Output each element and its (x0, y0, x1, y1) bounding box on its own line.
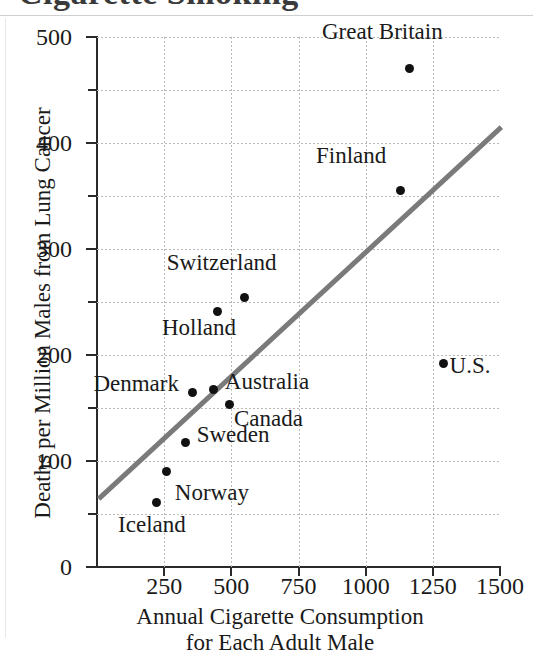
page-edge-rule (5, 18, 6, 638)
data-point-label: Australia (225, 370, 309, 393)
y-axis-tick (86, 36, 97, 38)
data-point-label: Iceland (118, 513, 186, 536)
y-axis-tick (86, 354, 97, 356)
data-point-label: Holland (162, 316, 236, 339)
y-axis-tick-label: 300 (12, 237, 72, 261)
x-axis-title-line1: Annual Cigarette Consumption (60, 604, 500, 630)
data-point (188, 388, 197, 397)
y-axis-tick-minor (88, 407, 97, 409)
data-point (152, 498, 161, 507)
gridline-vertical (433, 37, 434, 567)
y-axis-tick-label: 100 (12, 449, 72, 473)
x-axis-title-line2: for Each Adult Male (60, 630, 500, 656)
data-point-label: Denmark (93, 372, 179, 395)
y-axis-tick-label: 0 (12, 555, 72, 579)
y-axis-tick (86, 566, 97, 568)
gridline-vertical (299, 37, 300, 567)
y-axis-tick-label: 400 (12, 131, 72, 155)
gridline-vertical (164, 37, 165, 567)
data-point-label: Norway (175, 481, 249, 504)
y-axis-tick-minor (88, 301, 97, 303)
y-axis-tick-minor (88, 195, 97, 197)
data-point-label: Switzerland (167, 251, 277, 274)
data-point (439, 359, 448, 368)
gridline-vertical (366, 37, 367, 567)
data-point-label: Canada (234, 407, 303, 430)
data-point-label: Finland (316, 144, 386, 167)
y-axis-tick-minor (88, 89, 97, 91)
data-point (396, 186, 405, 195)
y-axis-tick-label: 200 (12, 343, 72, 367)
title-divider (0, 15, 533, 16)
data-point-label: Great Britain (322, 20, 443, 43)
data-point-label: U.S. (450, 354, 491, 377)
y-axis-tick (86, 142, 97, 144)
y-axis-tick (86, 248, 97, 250)
y-axis-tick-label: 500 (12, 25, 72, 49)
x-axis-title: Annual Cigarette Consumption for Each Ad… (60, 604, 500, 656)
page-title: Cigarette Smoking (18, 0, 299, 12)
x-axis-tick-label: 1500 (455, 572, 533, 600)
y-axis-tick-minor (88, 513, 97, 515)
y-axis-tick (86, 460, 97, 462)
